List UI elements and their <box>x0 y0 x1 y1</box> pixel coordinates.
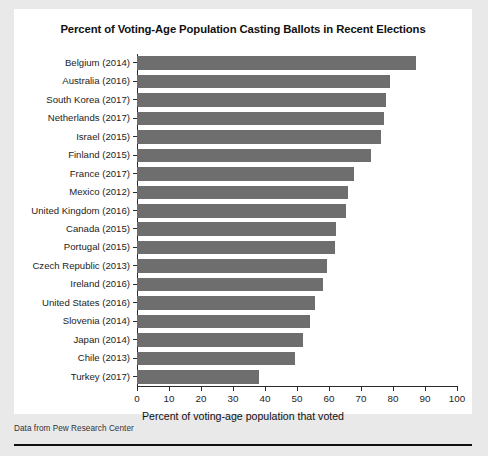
bar-row: Japan (2014) <box>137 331 457 349</box>
category-label: South Korea (2017) <box>46 93 130 106</box>
bar <box>137 259 327 273</box>
bar-row: Israel (2015) <box>137 128 457 146</box>
bar <box>137 352 295 366</box>
bar <box>137 75 390 89</box>
bar-row: Mexico (2012) <box>137 184 457 202</box>
bar-row: South Korea (2017) <box>137 91 457 109</box>
x-axis-tick-label: 100 <box>449 393 465 404</box>
x-axis-tick-label: 60 <box>324 393 335 404</box>
category-label: Australia (2016) <box>62 74 130 87</box>
x-axis-tick-label: 30 <box>228 393 239 404</box>
bar-row: Chile (2013) <box>137 350 457 368</box>
bar-row: Slovenia (2014) <box>137 313 457 331</box>
category-label: United Kingdom (2016) <box>31 204 130 217</box>
x-axis-tick-label: 20 <box>196 393 207 404</box>
x-axis-tick <box>329 386 330 391</box>
bar <box>137 333 303 347</box>
x-axis-tick-label: 40 <box>260 393 271 404</box>
x-axis-tick-label: 90 <box>420 393 431 404</box>
category-label: Canada (2015) <box>66 222 130 235</box>
category-label: Czech Republic (2013) <box>32 259 130 272</box>
category-label: Mexico (2012) <box>69 185 130 198</box>
page-root: Percent of Voting-Age Population Casting… <box>0 0 488 456</box>
x-axis-tick <box>393 386 394 391</box>
bar-row: Finland (2015) <box>137 147 457 165</box>
bar-row: Turkey (2017) <box>137 368 457 386</box>
bar <box>137 296 315 310</box>
bar-row: Canada (2015) <box>137 220 457 238</box>
x-axis-tick <box>201 386 202 391</box>
x-axis-tick-label: 0 <box>134 393 139 404</box>
plot-area: Belgium (2014)Australia (2016)South Kore… <box>137 54 457 386</box>
bar <box>137 149 371 163</box>
bar-row: Belgium (2014) <box>137 54 457 72</box>
bar <box>137 222 336 236</box>
category-label: Finland (2015) <box>68 148 130 161</box>
bar-row: United Kingdom (2016) <box>137 202 457 220</box>
category-label: France (2017) <box>70 167 130 180</box>
bar-row: Ireland (2016) <box>137 276 457 294</box>
bar <box>137 241 335 255</box>
category-label: Slovenia (2014) <box>63 314 130 327</box>
bar <box>137 370 259 384</box>
x-axis-tick <box>265 386 266 391</box>
bar-row: United States (2016) <box>137 294 457 312</box>
x-axis-tick <box>457 386 458 391</box>
category-label: Turkey (2017) <box>71 370 130 383</box>
x-axis-tick <box>361 386 362 391</box>
bar <box>137 186 348 200</box>
x-axis-tick <box>297 386 298 391</box>
x-axis-tick-label: 70 <box>356 393 367 404</box>
category-label: Netherlands (2017) <box>48 111 130 124</box>
bar <box>137 167 354 181</box>
category-label: Ireland (2016) <box>70 277 130 290</box>
bar-row: Portugal (2015) <box>137 239 457 257</box>
category-label: Belgium (2014) <box>65 56 130 69</box>
category-label: Chile (2013) <box>78 351 130 364</box>
x-axis-title: Percent of voting-age population that vo… <box>14 410 472 422</box>
bar <box>137 315 310 329</box>
bar-row: France (2017) <box>137 165 457 183</box>
bar-row: Czech Republic (2013) <box>137 257 457 275</box>
x-axis-tick-label: 10 <box>164 393 175 404</box>
bar-row: Netherlands (2017) <box>137 110 457 128</box>
bar <box>137 56 416 70</box>
category-label: Israel (2015) <box>76 130 130 143</box>
bottom-divider <box>14 444 472 446</box>
chart-title: Percent of Voting-Age Population Casting… <box>14 23 472 35</box>
x-axis-tick <box>425 386 426 391</box>
category-label: Japan (2014) <box>73 333 130 346</box>
bar <box>137 112 384 126</box>
chart-card: Percent of Voting-Age Population Casting… <box>14 9 472 414</box>
bar <box>137 93 386 107</box>
bar-row: Australia (2016) <box>137 73 457 91</box>
bar <box>137 130 381 144</box>
bar <box>137 278 323 292</box>
x-axis-tick <box>233 386 234 391</box>
x-axis-tick <box>137 386 138 391</box>
x-axis-tick <box>169 386 170 391</box>
category-label: United States (2016) <box>42 296 130 309</box>
x-axis-tick-label: 80 <box>388 393 399 404</box>
x-axis-tick-label: 50 <box>292 393 303 404</box>
bar <box>137 204 346 218</box>
category-label: Portugal (2015) <box>64 240 130 253</box>
source-note: Data from Pew Research Center <box>14 424 134 433</box>
